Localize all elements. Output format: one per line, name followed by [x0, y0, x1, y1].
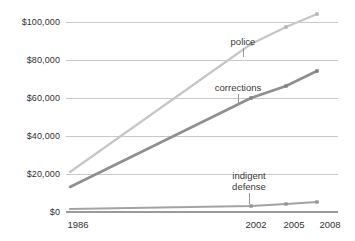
leader-line-indigent-defense — [249, 193, 250, 204]
marker-police-2008 — [315, 12, 318, 15]
x-tick-label-2002: 2002 — [245, 219, 266, 230]
series-label-police: police — [231, 36, 256, 47]
marker-corrections-2008 — [315, 69, 318, 72]
marker-corrections-2002 — [249, 96, 252, 99]
leader-line-police — [243, 48, 244, 57]
series-label-indigent-defense-line2: defense — [232, 181, 266, 192]
series-line-corrections — [70, 71, 317, 187]
marker-indigent-defense-2005 — [284, 202, 287, 205]
x-tick-label-2008: 2008 — [319, 219, 340, 230]
x-tick-label-2005: 2005 — [283, 219, 304, 230]
marker-police-2005 — [284, 25, 287, 28]
series-plot-area — [0, 0, 355, 241]
marker-corrections-2005 — [284, 84, 287, 87]
series-label-indigent-defense-line1: indigent — [232, 170, 265, 181]
series-label-corrections: corrections — [215, 82, 261, 93]
line-chart: $100,000 $80,000 $60,000 $40,000 $20,000… — [0, 0, 355, 241]
marker-indigent-defense-2002 — [249, 204, 252, 207]
series-label-indigent-defense: indigent defense — [232, 170, 266, 192]
marker-indigent-defense-2008 — [315, 200, 318, 203]
x-tick-label-1986: 1986 — [67, 219, 88, 230]
leader-line-corrections — [238, 94, 239, 103]
series-line-police — [70, 14, 317, 172]
series-line-indigent-defense — [70, 202, 317, 209]
